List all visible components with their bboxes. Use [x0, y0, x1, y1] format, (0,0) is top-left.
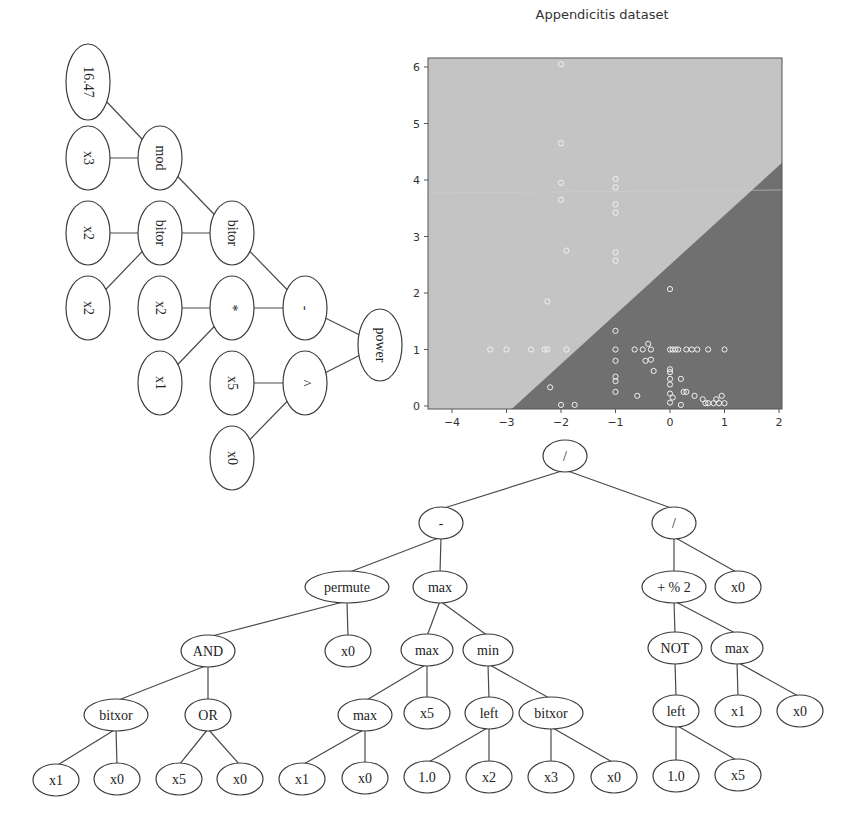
tree-node: x0 [325, 635, 371, 667]
tree-edge [675, 662, 676, 697]
tree-node: x1 [138, 351, 182, 415]
y-tick-label: 4 [413, 174, 420, 187]
y-tick-label: 1 [413, 344, 420, 357]
tree-node: AND [181, 635, 235, 667]
tree-edge [116, 665, 208, 701]
y-tick-label: 3 [413, 231, 420, 244]
tree-edge [347, 537, 441, 573]
node-label: - [439, 516, 444, 531]
node-label: x0 [793, 704, 807, 719]
node-label: x1 [153, 376, 168, 390]
x-tick-label: −4 [444, 416, 460, 429]
tree-node: x0 [217, 763, 263, 795]
tree-node: x2 [66, 201, 110, 265]
node-label: mod [153, 146, 168, 171]
node-label: + % 2 [657, 580, 691, 595]
tree-node: * [210, 276, 254, 340]
node-label: x1 [49, 773, 63, 788]
tree-node: + % 2 [642, 571, 706, 603]
x-tick-label: 1 [721, 416, 728, 429]
tree-node: OR [185, 699, 231, 731]
tree-edge [179, 729, 208, 765]
node-label: min [477, 643, 499, 658]
tree-node: x0 [715, 571, 761, 603]
tree-node: bitxor [519, 697, 583, 729]
tree-edge [440, 601, 488, 636]
tree-node: x2 [66, 276, 110, 340]
tree-node: bitor [210, 201, 254, 265]
tree-node: left [653, 695, 699, 727]
node-label: 1.0 [667, 769, 685, 784]
tree-node: max [338, 699, 392, 731]
node-label: ^ [298, 380, 313, 387]
tree-node: - [419, 507, 463, 539]
tree-edge [56, 729, 116, 766]
tree-edge [347, 601, 348, 637]
node-label: x2 [153, 301, 168, 315]
y-axis-ticks: 0123456 [413, 61, 428, 413]
tree-node: x3 [66, 126, 110, 190]
tree-node: ^ [283, 351, 327, 415]
tree-node: permute [305, 571, 389, 603]
node-label: * [225, 305, 240, 312]
tree-edge [427, 727, 489, 763]
tree-node: left [465, 697, 513, 729]
node-label: x0 [731, 580, 745, 595]
tree-node: x0 [777, 695, 823, 727]
node-label: max [353, 708, 377, 723]
node-label: max [725, 641, 749, 656]
y-tick-label: 5 [413, 118, 420, 131]
node-label: x2 [81, 226, 96, 240]
tree-node: 1.0 [404, 761, 450, 793]
node-label: x2 [482, 770, 496, 785]
node-label: max [415, 643, 439, 658]
tree-node: x5 [404, 697, 450, 729]
tree-node: x0 [94, 763, 140, 795]
tree-edge [674, 601, 675, 634]
tree-edge [441, 470, 565, 509]
x-tick-label: −2 [553, 416, 569, 429]
left-tree-nodes: 16.47x3modx2bitorbitorx2x2*-x1x5^powerx0 [66, 44, 402, 490]
node-label: x0 [358, 771, 372, 786]
node-label: left [667, 704, 686, 719]
tree-edge [488, 664, 551, 699]
tree-edge [365, 664, 427, 701]
y-tick-label: 2 [413, 287, 420, 300]
node-label: AND [193, 644, 223, 659]
tree-node: x2 [466, 761, 512, 793]
tree-node: max [711, 632, 763, 664]
x-tick-label: −3 [498, 416, 514, 429]
tree-node: NOT [648, 632, 702, 664]
tree-edge [440, 537, 441, 573]
tree-edge [208, 729, 240, 765]
chart-title: Appendicitis dataset [535, 7, 668, 22]
node-label: - [298, 306, 313, 311]
x-tick-label: 0 [667, 416, 674, 429]
node-label: x2 [81, 301, 96, 315]
tree-edge [737, 662, 800, 697]
x-tick-label: 2 [776, 416, 783, 429]
tree-node: mod [138, 126, 182, 190]
tree-node: x1 [33, 764, 79, 796]
node-label: OR [198, 708, 218, 723]
tree-node: max [401, 634, 453, 666]
tree-edge [565, 470, 674, 509]
tree-node: - [283, 276, 327, 340]
node-label: x5 [420, 706, 434, 721]
tree-node: x5 [210, 351, 254, 415]
tree-edge [208, 601, 347, 637]
tree-node: x2 [138, 276, 182, 340]
node-label: / [563, 449, 567, 464]
tree-edge [427, 601, 440, 636]
node-label: power [373, 328, 388, 363]
node-label: bitxor [534, 706, 568, 721]
node-label: x5 [225, 376, 240, 390]
node-label: left [480, 706, 499, 721]
tree-node: x0 [591, 761, 637, 793]
left-expression-tree: 16.47x3modx2bitorbitorx2x2*-x1x5^powerx0 [66, 44, 402, 490]
tree-edge [674, 601, 737, 634]
tree-node: x5 [715, 759, 761, 791]
tree-edge [676, 725, 738, 761]
tree-node: x1 [279, 763, 325, 795]
y-tick-label: 6 [413, 61, 420, 74]
